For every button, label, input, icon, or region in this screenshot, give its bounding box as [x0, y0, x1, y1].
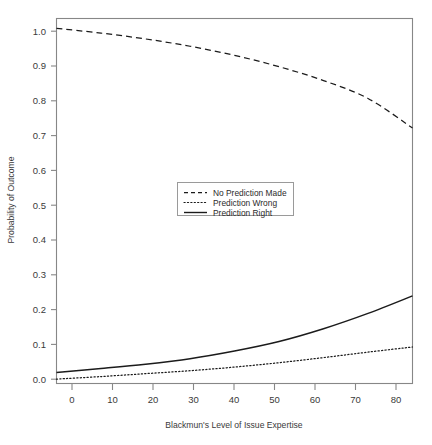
legend: No Prediction Made Prediction Wrong Pred…	[178, 183, 294, 218]
y-axis-ticks	[51, 31, 57, 379]
x-tick-label: 80	[391, 394, 402, 405]
x-tick-label: 10	[107, 394, 118, 405]
y-tick-label: 0.7	[33, 130, 46, 141]
x-tick-label: 0	[69, 394, 74, 405]
y-tick-label: 0.3	[33, 269, 46, 280]
legend-label: Prediction Right	[213, 208, 273, 218]
y-tick-label: 0.4	[33, 234, 46, 245]
x-tick-label: 30	[188, 394, 199, 405]
chart-figure: 1.0 0.9 0.8 0.7 0.6 0.5 0.4 0.3 0.2 0.1 …	[0, 0, 432, 445]
series-no-prediction-made	[57, 28, 413, 128]
legend-label: No Prediction Made	[213, 188, 287, 198]
x-tick-label: 50	[269, 394, 280, 405]
y-tick-label: 0.6	[33, 165, 46, 176]
y-tick-label: 0.9	[33, 60, 46, 71]
series-prediction-right	[57, 296, 413, 373]
y-tick-label: 0.0	[33, 374, 46, 385]
x-axis-tick-labels: 0 10 20 30 40 50 60 70 80	[69, 394, 401, 405]
probability-of-outcome-line-chart: 1.0 0.9 0.8 0.7 0.6 0.5 0.4 0.3 0.2 0.1 …	[0, 0, 432, 445]
y-tick-label: 0.5	[33, 200, 46, 211]
x-tick-label: 60	[310, 394, 321, 405]
y-tick-label: 0.1	[33, 339, 46, 350]
x-axis-title: Blackmun's Level of Issue Expertise	[165, 420, 303, 430]
y-tick-label: 0.2	[33, 304, 46, 315]
y-tick-label: 1.0	[33, 26, 46, 37]
series-prediction-wrong	[57, 347, 413, 379]
x-tick-label: 20	[148, 394, 159, 405]
x-axis-ticks	[72, 384, 396, 391]
y-tick-label: 0.8	[33, 95, 46, 106]
y-axis-title: Probability of Outcome	[6, 156, 16, 243]
y-axis-tick-labels: 1.0 0.9 0.8 0.7 0.6 0.5 0.4 0.3 0.2 0.1 …	[33, 26, 46, 385]
x-tick-label: 40	[229, 394, 240, 405]
legend-label: Prediction Wrong	[213, 198, 277, 208]
x-tick-label: 70	[350, 394, 361, 405]
